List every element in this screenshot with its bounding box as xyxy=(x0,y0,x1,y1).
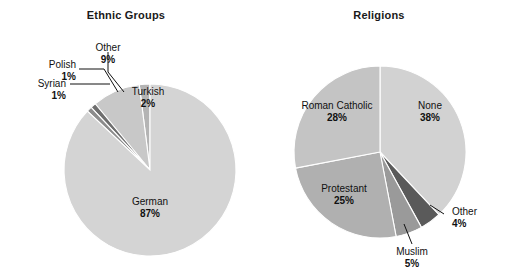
label-other-religion: Other 4% xyxy=(452,206,502,229)
label-roman-catholic-pct: 28% xyxy=(291,112,383,124)
label-german-name: German xyxy=(132,196,168,207)
pie-charts-figure: Ethnic Groups Religions German 87% Turki… xyxy=(0,0,505,280)
label-none-name: None xyxy=(418,100,442,111)
label-syrian-name: Syrian xyxy=(38,78,66,89)
label-other-ethnic: Other 9% xyxy=(78,42,138,65)
label-none-pct: 38% xyxy=(403,112,457,124)
label-turkish-pct: 2% xyxy=(117,98,179,110)
label-none: None 38% xyxy=(403,100,457,123)
label-german: German 87% xyxy=(118,196,182,219)
leader-line-polish xyxy=(79,69,118,92)
ethnic-groups-pie xyxy=(64,84,236,256)
label-other-religion-pct: 4% xyxy=(452,218,502,230)
label-turkish-name: Turkish xyxy=(132,86,164,97)
label-syrian-pct: 1% xyxy=(8,90,66,102)
label-protestant-pct: 25% xyxy=(308,195,380,207)
label-muslim: Muslim 5% xyxy=(385,246,439,269)
label-protestant: Protestant 25% xyxy=(308,183,380,206)
label-other-ethnic-name: Other xyxy=(95,42,120,53)
religions-pie xyxy=(294,66,466,238)
label-syrian: Syrian 1% xyxy=(8,78,66,101)
pie-slices-canvas xyxy=(0,0,505,280)
label-polish-name: Polish xyxy=(49,59,76,70)
label-roman-catholic-name: Roman Catholic xyxy=(301,100,372,111)
label-other-religion-name: Other xyxy=(452,206,477,217)
label-turkish: Turkish 2% xyxy=(117,86,179,109)
label-german-pct: 87% xyxy=(118,208,182,220)
label-muslim-name: Muslim xyxy=(396,246,428,257)
label-muslim-pct: 5% xyxy=(385,258,439,270)
label-other-ethnic-pct: 9% xyxy=(78,54,138,66)
label-roman-catholic: Roman Catholic 28% xyxy=(291,100,383,123)
label-protestant-name: Protestant xyxy=(321,183,367,194)
